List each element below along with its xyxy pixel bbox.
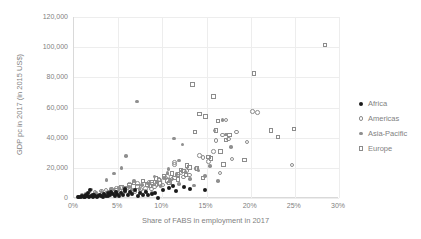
x-axis-tick-label: 0% [53, 202, 93, 210]
data-point-asiapacific [229, 145, 233, 149]
data-point-americas [135, 181, 140, 186]
data-point-americas [234, 130, 239, 135]
legend-item-americas[interactable]: Americas [356, 111, 420, 126]
data-point-asiapacific [192, 184, 196, 188]
data-point-africa [153, 191, 157, 195]
y-axis-tick-label: 0 [8, 194, 68, 202]
data-point-asiapacific [112, 172, 116, 176]
data-point-americas [206, 159, 211, 164]
data-point-asiapacific [135, 100, 139, 104]
gridline-vertical [162, 17, 163, 198]
data-point-africa [156, 196, 160, 200]
data-point-asiapacific [172, 137, 176, 141]
x-axis-title: Share of FABS in employment in 2017 [73, 216, 338, 225]
data-point-asiapacific [224, 133, 228, 137]
gridline-vertical [295, 17, 296, 198]
data-point-asiapacific [177, 159, 181, 163]
gridline-vertical [339, 17, 340, 198]
data-point-americas [211, 149, 216, 154]
data-point-asiapacific [120, 166, 124, 170]
x-axis-tick-label: 10% [141, 202, 181, 210]
data-point-europe [193, 130, 198, 135]
data-point-europe [216, 119, 221, 124]
legend-marker-africa-icon [356, 102, 366, 106]
data-point-americas [165, 174, 170, 179]
data-point-europe [276, 135, 281, 140]
data-point-americas [150, 182, 155, 187]
data-point-americas [224, 118, 229, 123]
y-axis-title: GDP pc in 2017 (in 2015 US$) [15, 20, 24, 190]
data-point-africa [161, 188, 165, 192]
data-point-africa [188, 187, 192, 191]
data-point-americas [214, 138, 219, 143]
gridline-vertical [118, 17, 119, 198]
data-point-asiapacific [188, 177, 192, 181]
data-point-europe [190, 82, 195, 87]
data-point-americas [157, 177, 162, 182]
data-point-europe [323, 43, 328, 48]
data-point-asiapacific [208, 164, 212, 168]
data-point-europe [185, 163, 190, 168]
chart-legend: AfricaAmericasAsia-PacificEurope [356, 96, 420, 156]
x-axis-tick-label: 5% [97, 202, 137, 210]
data-point-americas [170, 177, 175, 182]
data-point-americas [220, 133, 225, 138]
data-point-americas [218, 171, 223, 176]
data-point-americas [255, 110, 260, 115]
data-point-americas [127, 182, 132, 187]
legend-item-asiapacific[interactable]: Asia-Pacific [356, 126, 420, 141]
data-point-americas [250, 109, 255, 114]
gridline-horizontal [74, 198, 339, 199]
legend-marker-europe-icon [356, 146, 366, 151]
legend-item-africa[interactable]: Africa [356, 96, 420, 111]
data-point-africa [171, 184, 175, 188]
data-point-americas [194, 166, 199, 171]
data-point-americas [226, 137, 231, 142]
data-point-europe [242, 158, 247, 163]
data-point-asiapacific [216, 179, 220, 183]
data-point-africa [174, 189, 178, 193]
data-point-asiapacific [203, 174, 207, 178]
data-point-africa [141, 193, 145, 197]
data-point-africa [123, 187, 127, 191]
data-point-europe [176, 177, 181, 182]
data-point-americas [155, 182, 160, 187]
data-point-asiapacific [177, 182, 181, 186]
legend-label: Asia-Pacific [368, 129, 407, 138]
x-axis-tick-label: 20% [230, 202, 270, 210]
plot-area [73, 17, 338, 198]
data-point-europe [292, 127, 297, 132]
scatter-chart: 020,00040,00060,00080,000100,000120,000 … [0, 0, 421, 239]
gridline-vertical [207, 17, 208, 198]
legend-marker-asiapacific-icon [356, 132, 366, 136]
data-point-europe [211, 94, 216, 99]
data-point-americas [172, 162, 177, 167]
data-point-europe [218, 149, 223, 154]
data-point-americas [201, 155, 206, 160]
data-point-africa [182, 185, 186, 189]
data-point-asiapacific [124, 154, 128, 158]
legend-label: Europe [368, 144, 392, 153]
data-point-americas [187, 173, 192, 178]
data-point-europe [269, 128, 274, 133]
data-point-americas [230, 157, 235, 162]
data-point-africa [130, 192, 134, 196]
data-point-americas [161, 183, 166, 188]
data-point-africa [121, 193, 125, 197]
data-point-europe [252, 71, 257, 76]
x-axis-tick-label: 30% [318, 202, 358, 210]
legend-item-europe[interactable]: Europe [356, 141, 420, 156]
x-axis-tick-label: 15% [186, 202, 226, 210]
data-point-africa [203, 188, 207, 192]
data-point-asiapacific [105, 178, 109, 182]
legend-label: Africa [368, 99, 387, 108]
data-point-americas [166, 181, 171, 186]
legend-marker-americas-icon [356, 116, 366, 121]
legend-label: Americas [368, 114, 399, 123]
data-point-europe [203, 114, 208, 119]
data-point-asiapacific [181, 143, 185, 147]
gridline-vertical [251, 17, 252, 198]
x-axis-tick-label: 25% [274, 202, 314, 210]
data-point-europe [221, 162, 226, 167]
data-point-americas [245, 140, 250, 145]
